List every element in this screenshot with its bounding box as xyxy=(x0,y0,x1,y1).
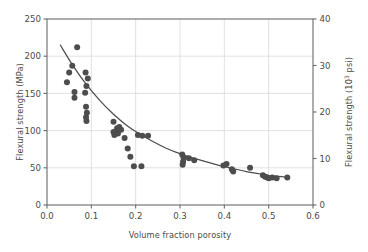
data-point xyxy=(71,95,77,101)
x-tick-label: 0.1 xyxy=(84,211,98,221)
y-tick-label: 250 xyxy=(25,14,41,24)
data-point xyxy=(125,145,131,151)
figure-container: 0.00.10.20.30.40.50.6 050100150200250 01… xyxy=(0,0,368,252)
data-point xyxy=(186,155,192,161)
y-tick-label: 50 xyxy=(30,163,41,173)
data-point xyxy=(145,133,151,139)
data-point xyxy=(191,157,197,163)
data-point xyxy=(138,163,144,169)
y-tick-label: 100 xyxy=(25,126,41,136)
y2-tick-label: 30 xyxy=(320,61,331,71)
x-tick-label: 0.4 xyxy=(217,211,231,221)
data-point xyxy=(74,44,80,50)
data-point xyxy=(122,135,128,141)
data-point xyxy=(111,119,117,125)
y-axis-left-title: Flexural strength (MPa) xyxy=(15,63,25,161)
data-point xyxy=(66,70,72,76)
x-tick-label: 0.5 xyxy=(262,211,276,221)
data-point xyxy=(139,133,145,139)
x-axis-title: Volume fraction porosity xyxy=(129,230,232,240)
data-point xyxy=(83,83,89,89)
data-point xyxy=(82,90,88,96)
x-tick-label: 0.0 xyxy=(40,211,54,221)
data-point xyxy=(111,132,117,138)
y-tick-label: 200 xyxy=(25,51,41,61)
data-point xyxy=(83,104,89,110)
y2-tick-label: 20 xyxy=(320,107,331,117)
data-point xyxy=(64,79,70,85)
data-point xyxy=(247,165,253,171)
data-point xyxy=(83,70,89,76)
data-point xyxy=(83,118,89,124)
x-tick-label: 0.6 xyxy=(306,211,320,221)
y-axis-right-title: Flexural strength (103 psi) xyxy=(343,57,354,167)
y-tick-label: 0 xyxy=(36,200,41,210)
y2-tick-label: 40 xyxy=(320,14,331,24)
y2-tick-label: 10 xyxy=(320,154,331,164)
data-point xyxy=(85,76,91,82)
x-tick-label: 0.2 xyxy=(129,211,143,221)
data-point xyxy=(230,169,236,175)
y2-tick-label: 0 xyxy=(320,200,325,210)
data-point xyxy=(71,89,77,95)
y-tick-label: 150 xyxy=(25,89,41,99)
x-tick-label: 0.3 xyxy=(173,211,187,221)
data-point xyxy=(180,162,186,168)
data-point xyxy=(69,63,75,69)
data-point xyxy=(127,154,133,160)
data-point xyxy=(274,175,280,181)
flexural-strength-scatter-chart: 0.00.10.20.30.40.50.6 050100150200250 01… xyxy=(0,0,368,252)
data-point xyxy=(131,163,137,169)
data-point xyxy=(224,161,230,167)
data-point xyxy=(284,174,290,180)
